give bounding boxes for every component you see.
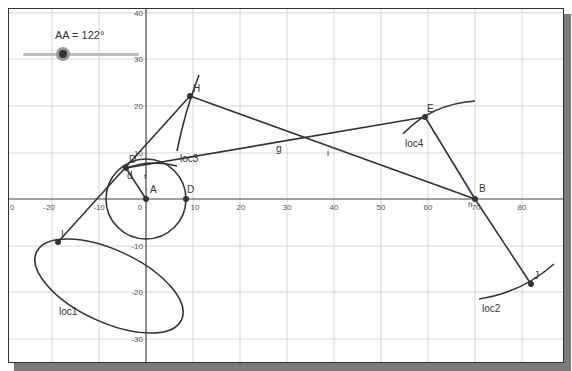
y-tick-label: -20	[131, 288, 143, 297]
y-tick-label: -10	[131, 242, 143, 251]
x-tick-label: 80	[518, 203, 527, 212]
x-tick-label: 40	[330, 203, 339, 212]
label-d: d	[127, 170, 133, 181]
slider-label: AA = 122°	[55, 29, 104, 41]
slider-track[interactable]	[23, 53, 139, 56]
label-loc4: loc4	[405, 138, 424, 149]
label-i: i	[327, 148, 329, 158]
x-tick-label: 0	[138, 203, 143, 212]
point-B	[472, 196, 478, 202]
slider-knob[interactable]	[56, 47, 70, 61]
x-tick-label: 20	[237, 203, 246, 212]
x-tick-label: 70	[472, 203, 481, 212]
label-loc2: loc2	[482, 303, 501, 314]
point-D	[183, 196, 189, 202]
locus-loc2[interactable]	[479, 264, 554, 299]
x-tick-label: 60	[424, 203, 433, 212]
label-A: A	[150, 184, 157, 195]
y-tick-label: 20	[134, 102, 143, 111]
x-tick-label: 50	[377, 203, 386, 212]
point-E	[422, 114, 428, 120]
label-h: h	[468, 200, 472, 209]
y-tick-label: -30	[131, 335, 143, 344]
x-tick-label: 0	[10, 203, 15, 212]
segment-E-B	[425, 117, 475, 199]
label-loc1: loc1	[59, 306, 78, 317]
label-E: E	[427, 103, 434, 114]
label-I: I	[61, 229, 64, 240]
label-loc3: loc3	[180, 153, 199, 164]
x-tick-label: 30	[283, 203, 292, 212]
x-tick-label: 10	[191, 203, 200, 212]
graphics-view[interactable]: 0 -20 -10 0 10 20 30 40 50 60 70 80 40 3…	[8, 8, 564, 363]
slider-AA[interactable]: AA = 122°	[17, 29, 147, 69]
x-tick-label: -10	[93, 203, 105, 212]
y-tick-label: 40	[134, 9, 143, 18]
label-H: H	[193, 83, 200, 94]
label-D2: D	[129, 154, 136, 165]
locus-loc1[interactable]	[21, 220, 196, 353]
point-labels: A D D H E B J I	[61, 83, 539, 281]
points[interactable]	[55, 93, 534, 287]
point-J	[528, 281, 534, 287]
label-D: D	[187, 184, 194, 195]
label-B: B	[479, 183, 486, 194]
x-tick-label: -20	[43, 203, 55, 212]
point-A	[143, 196, 149, 202]
label-J: J	[534, 270, 539, 281]
label-g: g	[276, 143, 282, 154]
